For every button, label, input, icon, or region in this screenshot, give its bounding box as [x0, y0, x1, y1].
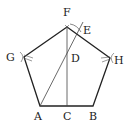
label-h: H [114, 54, 124, 67]
compass-mark-h [101, 53, 114, 63]
diagram-canvas: F E G D H A C B [0, 0, 131, 127]
label-f: F [63, 6, 71, 19]
label-d: D [71, 52, 80, 65]
label-b: B [89, 110, 97, 123]
label-e: E [83, 24, 91, 37]
label-g: G [6, 51, 15, 64]
label-c: C [63, 110, 71, 123]
label-a: A [33, 110, 43, 123]
compass-mark-g [20, 52, 33, 62]
pentagon-construction-diagram: F E G D H A C B [0, 0, 131, 127]
